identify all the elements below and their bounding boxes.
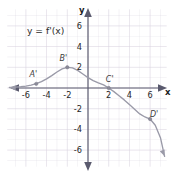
x-tick-label: -6 xyxy=(22,90,30,100)
x-tick-label: 4 xyxy=(127,90,132,100)
point-label: D' xyxy=(150,110,158,119)
y-tick-label: 2 xyxy=(77,62,82,72)
x-tick-label: 6 xyxy=(147,90,152,100)
x-tick-label: -2 xyxy=(63,90,71,100)
point-label: B' xyxy=(59,54,67,63)
x-tick-label: 2 xyxy=(106,90,111,100)
coordinate-plane: -6-4-2246642-2-4-6 A'B'C'D' x y y = f'(x… xyxy=(0,0,175,179)
y-tick-label: -2 xyxy=(74,104,82,114)
x-axis-label: x xyxy=(165,87,171,97)
point-label: A' xyxy=(28,70,37,79)
y-tick-label: 6 xyxy=(77,21,82,31)
function-annotation: y = f'(x) xyxy=(27,25,64,36)
y-axis-label: y xyxy=(79,5,85,15)
y-tick-label: -4 xyxy=(74,124,82,134)
x-tick-label: -4 xyxy=(43,90,51,100)
graph-figure: -6-4-2246642-2-4-6 A'B'C'D' x y y = f'(x… xyxy=(0,0,175,179)
axis-names: x y xyxy=(79,5,171,97)
y-tick-label: -6 xyxy=(74,145,82,155)
point-label: C' xyxy=(106,75,114,84)
y-tick-label: 4 xyxy=(77,42,82,52)
